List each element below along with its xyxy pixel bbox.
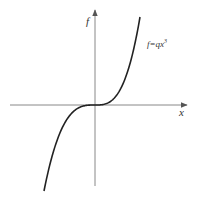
x-axis-label: x: [178, 106, 184, 118]
curve-label: f=qx3: [147, 38, 167, 49]
y-axis-label: f: [86, 15, 91, 27]
curve-label-exponent: 3: [163, 38, 167, 44]
cubic-function-diagram: f x f=qx3: [0, 0, 197, 204]
curve-label-text: f=qx: [147, 39, 164, 49]
cubic-curve: [44, 17, 140, 191]
